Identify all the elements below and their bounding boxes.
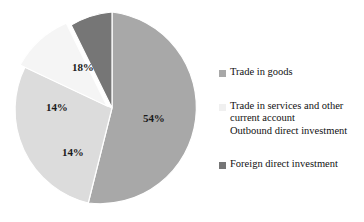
legend-swatch-icon-trade-in-services bbox=[219, 104, 226, 111]
pie-chart-plot-area: 54% 18% 14% 14% bbox=[0, 0, 216, 222]
pie-label-trade-in-services: 14% bbox=[46, 101, 68, 113]
legend-label-trade-in-goods: Trade in goods bbox=[230, 66, 364, 79]
pie-label-trade-in-goods: 54% bbox=[143, 112, 165, 124]
pie-chart-svg bbox=[0, 0, 216, 222]
pie-label-foreign-direct-investment: 18% bbox=[72, 61, 94, 73]
legend-swatch-icon-trade-in-goods bbox=[219, 70, 226, 77]
legend-label-trade-in-services-line1: Trade in services and other bbox=[230, 100, 364, 113]
chart-legend: Trade in goods Trade in services and oth… bbox=[219, 62, 364, 171]
legend-label-trade-in-services-line2: current account bbox=[230, 112, 364, 125]
legend-item-trade-in-goods[interactable]: Trade in goods bbox=[219, 66, 364, 79]
pie-chart-figure: 54% 18% 14% 14% Trade in goods Trade in … bbox=[0, 0, 364, 222]
legend-label-foreign-direct-investment: Foreign direct investment bbox=[230, 158, 364, 171]
legend-item-trade-in-services[interactable]: Trade in services and other current acco… bbox=[219, 100, 364, 138]
legend-swatch-icon-foreign-direct-investment bbox=[219, 162, 226, 169]
pie-label-outbound-direct-investment: 14% bbox=[62, 146, 84, 158]
legend-label-outbound-direct-investment: Outbound direct investment bbox=[230, 125, 364, 138]
legend-item-foreign-direct-investment[interactable]: Foreign direct investment bbox=[219, 158, 364, 171]
